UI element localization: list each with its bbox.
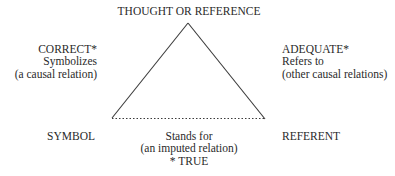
referent-label-text: REFERENT <box>282 130 382 142</box>
semiotic-triangle-diagram: THOUGHT OR REFERENCE CORRECT* Symbolizes… <box>0 0 395 176</box>
base-line-2: (an imputed relation) <box>128 142 250 154</box>
right-side-line-1: ADEQUATE* <box>282 43 395 55</box>
referent-label: REFERENT <box>282 130 382 142</box>
symbol-label: SYMBOL <box>0 130 95 142</box>
left-side-line-1: CORRECT* <box>0 43 97 55</box>
left-edge-symbolizes <box>112 23 188 118</box>
left-side-label: CORRECT* Symbolizes (a causal relation) <box>0 43 97 80</box>
right-side-line-2: Refers to <box>282 55 395 67</box>
right-side-line-3: (other causal relations) <box>282 68 395 80</box>
apex-label: THOUGHT OR REFERENCE <box>110 5 268 17</box>
right-side-label: ADEQUATE* Refers to (other causal relati… <box>282 43 395 80</box>
symbol-label-text: SYMBOL <box>0 130 95 142</box>
apex-label-text: THOUGHT OR REFERENCE <box>110 5 268 17</box>
base-line-3: * TRUE <box>128 155 250 167</box>
left-side-line-3: (a causal relation) <box>0 68 97 80</box>
right-edge-refers-to <box>188 23 265 119</box>
base-label: Stands for (an imputed relation) * TRUE <box>128 130 250 167</box>
base-line-1: Stands for <box>128 130 250 142</box>
left-side-line-2: Symbolizes <box>0 55 97 67</box>
